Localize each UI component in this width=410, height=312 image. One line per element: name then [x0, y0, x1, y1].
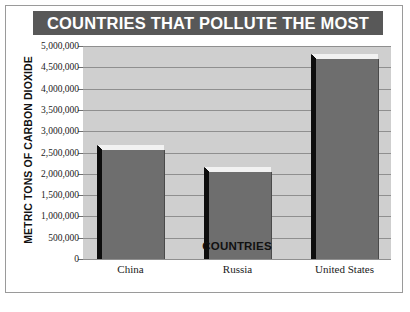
bar-top-face	[209, 167, 271, 172]
plot-wrap: 5,000,000 4,500,000 4,000,000 3,500,000 …	[83, 46, 391, 259]
y-tick-label: 500,000	[48, 233, 79, 243]
x-axis-title: COUNTRIES	[83, 240, 391, 252]
y-tick-label: 1,000,000	[41, 211, 79, 221]
x-tick-label-china: China	[97, 263, 164, 275]
gridline	[83, 259, 391, 260]
y-tick-label: 3,500,000	[41, 105, 79, 115]
bar-top-face	[102, 145, 164, 150]
y-tick-label: 2,000,000	[41, 169, 79, 179]
y-tick-label: 2,500,000	[41, 148, 79, 158]
bar-front-face	[316, 59, 379, 259]
chart-frame: COUNTRIES THAT POLLUTE THE MOST METRIC T…	[5, 5, 403, 293]
y-tick-label: 0	[74, 254, 79, 264]
chart-title-banner: COUNTRIES THAT POLLUTE THE MOST	[33, 11, 383, 35]
gridline	[83, 46, 391, 47]
y-tick-label: 5,000,000	[41, 41, 79, 51]
y-axis-title: METRIC TONS OF CARBON DIOXIDE	[22, 40, 34, 260]
y-tick-label: 3,000,000	[41, 126, 79, 136]
chart-title: COUNTRIES THAT POLLUTE THE MOST	[47, 14, 369, 33]
y-tick-label: 4,000,000	[41, 84, 79, 94]
x-tick-label-united-states: United States	[311, 263, 378, 275]
bar-top-face	[316, 54, 378, 59]
y-tick-label: 4,500,000	[41, 62, 79, 72]
y-tick-label: 1,500,000	[41, 190, 79, 200]
x-tick-label-russia: Russia	[204, 263, 271, 275]
